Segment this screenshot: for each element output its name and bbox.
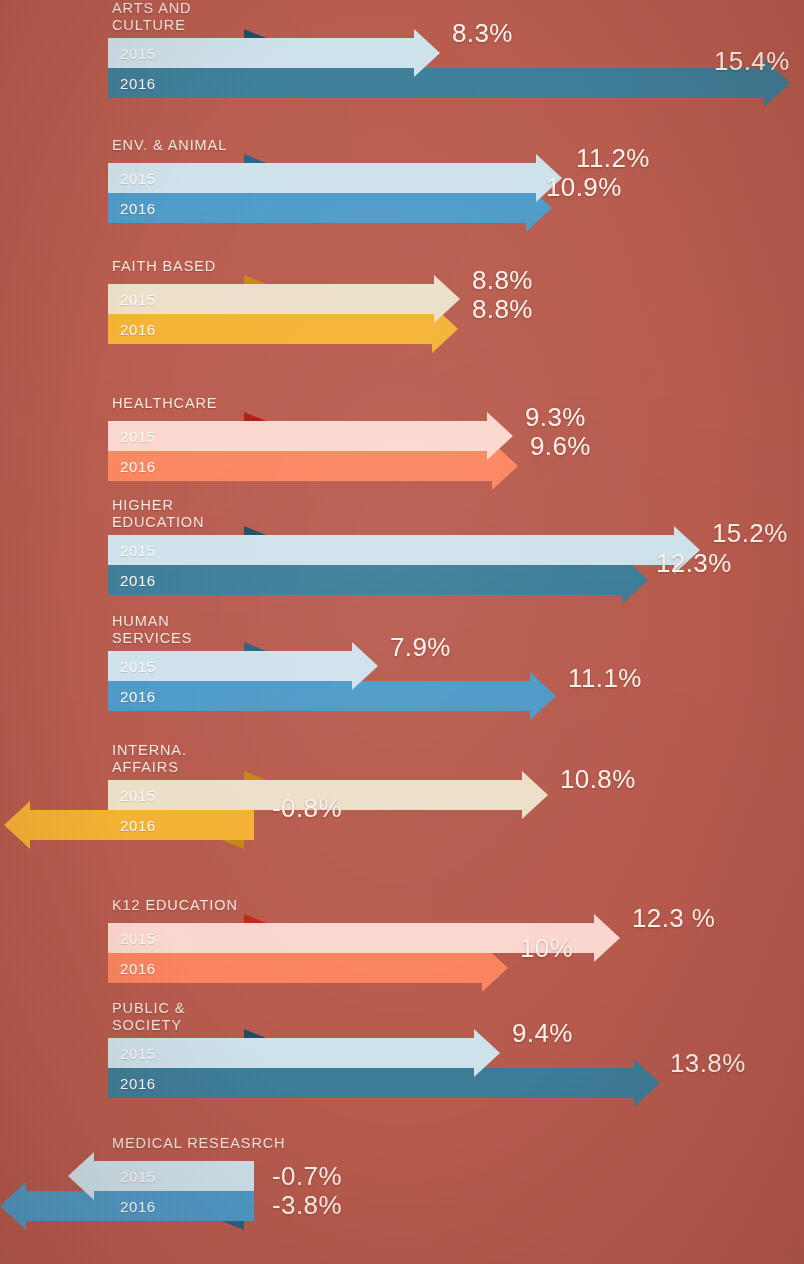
year-plate-2015-arts-and-culture: 2015 <box>108 38 254 68</box>
arrow-2015-higher-education <box>244 535 700 565</box>
year-plate-2015-faith-based: 2015 <box>108 284 254 314</box>
year-plate-2015-k12-education-text: 2015 <box>120 930 156 947</box>
year-plate-2016-human-services-text: 2016 <box>120 688 156 705</box>
value-2016-international-affairs: -0.8% <box>272 793 342 824</box>
value-2015-faith-based: 8.8% <box>472 265 533 296</box>
fold-2015-arts-and-culture <box>244 29 266 38</box>
fold-2015-healthcare <box>244 412 266 421</box>
arrow-2015-faith-based-shaft <box>244 284 434 314</box>
year-plate-2015-env-and-animal: 2015 <box>108 163 254 193</box>
arrow-2015-healthcare-head <box>487 412 513 460</box>
value-2015-higher-education: 15.2% <box>712 518 788 549</box>
value-2015-human-services: 7.9% <box>390 632 451 663</box>
year-plate-2016-env-and-animal: 2016 <box>108 193 254 223</box>
arrow-2015-faith-based <box>244 284 460 314</box>
arrow-2015-medical-research-head <box>68 1152 94 1200</box>
year-plate-2016-healthcare-text: 2016 <box>120 458 156 475</box>
year-plate-2016-arts-and-culture-text: 2016 <box>120 75 156 92</box>
category-label-medical-research: MEDICAL RESEASRCH <box>112 1135 286 1152</box>
year-plate-2015-healthcare: 2015 <box>108 421 254 451</box>
value-2016-env-and-animal: 10.9% <box>546 172 622 203</box>
value-2015-k12-education: 12.3 % <box>632 903 715 934</box>
value-2016-medical-research: -3.8% <box>272 1190 342 1221</box>
year-plate-2016-higher-education: 2016 <box>108 565 254 595</box>
arrow-2016-healthcare-shaft <box>244 451 492 481</box>
arrow-2015-human-services <box>244 651 378 681</box>
category-label-faith-based: FAITH BASED <box>112 258 216 275</box>
value-2015-healthcare: 9.3% <box>525 402 586 433</box>
year-plate-2016-faith-based: 2016 <box>108 314 254 344</box>
year-plate-2015-human-services-text: 2015 <box>120 658 156 675</box>
fold-2015-higher-education <box>244 526 266 535</box>
arrow-2016-public-and-society-head <box>634 1059 660 1107</box>
fold-2016-international-affairs <box>222 840 244 849</box>
year-plate-2015-medical-research-text: 2015 <box>120 1168 156 1185</box>
arrow-2016-arts-and-culture <box>244 68 790 98</box>
year-plate-2016-k12-education-text: 2016 <box>120 960 156 977</box>
year-plate-2015-international-affairs-text: 2015 <box>120 787 156 804</box>
fold-2015-k12-education <box>244 914 266 923</box>
year-plate-2016-higher-education-text: 2016 <box>120 572 156 589</box>
arrow-2015-k12-education-head <box>594 914 620 962</box>
arrow-2016-k12-education <box>244 953 508 983</box>
arrow-2016-higher-education <box>244 565 648 595</box>
arrow-2016-faith-based-shaft <box>244 314 432 344</box>
year-plate-2016-faith-based-text: 2016 <box>120 321 156 338</box>
arrow-2016-international-affairs-head <box>4 801 30 849</box>
year-plate-2016-human-services: 2016 <box>108 681 254 711</box>
year-plate-2016-healthcare: 2016 <box>108 451 254 481</box>
year-plate-2015-k12-education: 2015 <box>108 923 254 953</box>
arrow-2015-human-services-shaft <box>244 651 352 681</box>
fold-2015-faith-based <box>244 275 266 284</box>
value-2015-env-and-animal: 11.2% <box>576 143 650 174</box>
arrow-2016-human-services <box>244 681 556 711</box>
category-label-higher-education: HIGHER EDUCATION <box>112 497 204 531</box>
year-plate-2016-k12-education: 2016 <box>108 953 254 983</box>
arrow-2015-faith-based-head <box>434 275 460 323</box>
year-plate-2016-international-affairs-text: 2016 <box>120 817 156 834</box>
value-2015-international-affairs: 10.8% <box>560 764 636 795</box>
arrow-2016-medical-research-head <box>0 1182 26 1230</box>
arrow-2016-healthcare <box>244 451 518 481</box>
fold-2015-env-and-animal <box>244 154 266 163</box>
year-plate-2015-arts-and-culture-text: 2015 <box>120 45 156 62</box>
arrow-2015-healthcare-shaft <box>244 421 487 451</box>
category-label-k12-education: K12 EDUCATION <box>112 897 238 914</box>
category-label-international-affairs: INTERNA. AFFAIRS <box>112 742 187 776</box>
value-2016-higher-education: 12.3% <box>656 548 732 579</box>
arrow-2015-arts-and-culture-head <box>414 29 440 77</box>
year-plate-2015-env-and-animal-text: 2015 <box>120 170 156 187</box>
value-2016-healthcare: 9.6% <box>530 431 591 462</box>
year-plate-2016-arts-and-culture: 2016 <box>108 68 254 98</box>
year-plate-2015-higher-education: 2015 <box>108 535 254 565</box>
fold-2016-medical-research <box>222 1221 244 1230</box>
year-plate-2016-medical-research: 2016 <box>108 1191 254 1221</box>
arrow-2015-public-and-society <box>244 1038 500 1068</box>
arrow-2016-env-and-animal-shaft <box>244 193 526 223</box>
year-plate-2015-public-and-society-text: 2015 <box>120 1045 156 1062</box>
value-2015-medical-research: -0.7% <box>272 1161 342 1192</box>
value-2016-public-and-society: 13.8% <box>670 1048 746 1079</box>
arrow-2016-public-and-society-shaft <box>244 1068 634 1098</box>
arrow-2016-higher-education-shaft <box>244 565 622 595</box>
infographic-chart: ARTS AND CULTURE201520168.3%15.4%ENV. & … <box>0 0 804 1264</box>
category-label-arts-and-culture: ARTS AND CULTURE <box>112 0 191 34</box>
arrow-2015-public-and-society-shaft <box>244 1038 474 1068</box>
fold-2015-public-and-society <box>244 1029 266 1038</box>
year-plate-2015-higher-education-text: 2015 <box>120 542 156 559</box>
category-label-public-and-society: PUBLIC & SOCIETY <box>112 1000 185 1034</box>
fold-2015-international-affairs <box>244 771 266 780</box>
arrow-2016-faith-based <box>244 314 458 344</box>
arrow-2016-arts-and-culture-shaft <box>244 68 764 98</box>
category-label-env-and-animal: ENV. & ANIMAL <box>112 137 227 154</box>
arrow-2016-public-and-society <box>244 1068 660 1098</box>
year-plate-2015-public-and-society: 2015 <box>108 1038 254 1068</box>
year-plate-2016-public-and-society: 2016 <box>108 1068 254 1098</box>
value-2016-human-services: 11.1% <box>568 663 642 694</box>
arrow-2015-env-and-animal <box>244 163 562 193</box>
arrow-2015-arts-and-culture-shaft <box>244 38 414 68</box>
arrow-2016-k12-education-shaft <box>244 953 482 983</box>
year-plate-2016-env-and-animal-text: 2016 <box>120 200 156 217</box>
year-plate-2015-faith-based-text: 2015 <box>120 291 156 308</box>
value-2016-faith-based: 8.8% <box>472 294 533 325</box>
